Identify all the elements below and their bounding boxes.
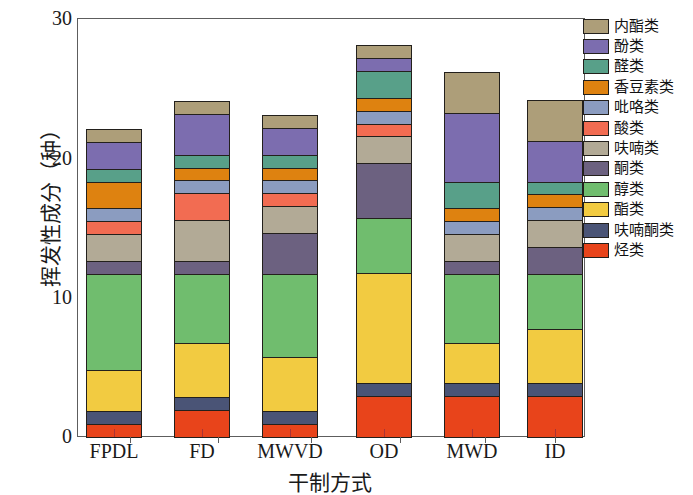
- x-tick-label: ID: [505, 440, 605, 463]
- bar-segment[interactable]: [356, 71, 412, 99]
- legend-swatch-icon: [583, 182, 609, 197]
- legend-item[interactable]: 香豆素类: [583, 77, 693, 97]
- bar-segment[interactable]: [444, 182, 500, 210]
- bar-segment[interactable]: [356, 163, 412, 219]
- bar-segment[interactable]: [356, 98, 412, 112]
- x-tick-label: FD: [152, 440, 252, 463]
- legend-item[interactable]: 酸类: [583, 118, 693, 138]
- bar-segment[interactable]: [527, 207, 583, 221]
- legend-item[interactable]: 吡咯类: [583, 98, 693, 118]
- bar-segment[interactable]: [527, 329, 583, 385]
- x-tick-label: FPDL: [64, 440, 164, 463]
- bar-segment[interactable]: [356, 45, 412, 59]
- bar-segment[interactable]: [174, 180, 230, 194]
- legend-item-label: 香豆素类: [614, 80, 674, 95]
- bar-segment[interactable]: [356, 383, 412, 397]
- bar-segment[interactable]: [527, 100, 583, 142]
- bar-segment[interactable]: [356, 111, 412, 125]
- bar-segment[interactable]: [262, 274, 318, 358]
- stacked-bar[interactable]: [527, 100, 583, 437]
- legend-item-label: 呋喃酮类: [614, 223, 674, 238]
- bar-segment[interactable]: [262, 233, 318, 275]
- legend-item[interactable]: 酮类: [583, 159, 693, 179]
- stacked-bar-chart: 挥发性成分（种） 30 20 10 0 FPDLFDMWVDODMWDID 干制…: [0, 0, 693, 495]
- bar-segment[interactable]: [174, 155, 230, 169]
- bar-segment[interactable]: [86, 274, 142, 372]
- legend-item[interactable]: 内酯类: [583, 16, 693, 36]
- legend-item[interactable]: 醛类: [583, 57, 693, 77]
- bar-segment[interactable]: [444, 72, 500, 114]
- bar-segment[interactable]: [86, 221, 142, 235]
- legend-swatch-icon: [583, 80, 609, 95]
- bar-segment[interactable]: [86, 208, 142, 222]
- bar-segment[interactable]: [262, 115, 318, 129]
- bar-segment[interactable]: [444, 261, 500, 275]
- bar-segment[interactable]: [356, 58, 412, 72]
- stacked-bar[interactable]: [86, 129, 142, 437]
- bar-segment[interactable]: [527, 220, 583, 248]
- bar-segment[interactable]: [444, 208, 500, 222]
- bar-segment[interactable]: [174, 114, 230, 156]
- bar-segment[interactable]: [86, 234, 142, 262]
- bar-segment[interactable]: [262, 128, 318, 156]
- legend-swatch-icon: [583, 59, 609, 74]
- bar-segment[interactable]: [86, 182, 142, 210]
- bar-segment[interactable]: [527, 247, 583, 275]
- bar-segment[interactable]: [527, 274, 583, 330]
- bar-segment[interactable]: [356, 273, 412, 385]
- bar-segment[interactable]: [174, 274, 230, 344]
- x-tick-mark: [555, 429, 556, 437]
- bar-segment[interactable]: [444, 343, 500, 385]
- legend-item-label: 酚类: [614, 39, 644, 54]
- bar-segment[interactable]: [86, 169, 142, 183]
- legend-item[interactable]: 醇类: [583, 179, 693, 199]
- bar-segment[interactable]: [174, 261, 230, 275]
- stacked-bar[interactable]: [444, 72, 500, 437]
- bar-segment[interactable]: [174, 343, 230, 399]
- bar-segment[interactable]: [174, 101, 230, 115]
- bar-segment[interactable]: [527, 141, 583, 183]
- bar-segment[interactable]: [356, 124, 412, 138]
- bar-segment[interactable]: [86, 129, 142, 143]
- bar-segment[interactable]: [262, 155, 318, 169]
- legend-item[interactable]: 酚类: [583, 36, 693, 56]
- bar-segment[interactable]: [444, 383, 500, 397]
- bar-segment[interactable]: [86, 370, 142, 412]
- bar-segment[interactable]: [527, 182, 583, 196]
- bar-segment[interactable]: [444, 221, 500, 235]
- legend-swatch-icon: [583, 19, 609, 34]
- legend-item[interactable]: 烃类: [583, 240, 693, 260]
- bar-segment[interactable]: [174, 220, 230, 262]
- bar-segment[interactable]: [527, 383, 583, 397]
- bar-segment[interactable]: [444, 113, 500, 183]
- legend-swatch-icon: [583, 141, 609, 156]
- bar-segment[interactable]: [444, 234, 500, 262]
- bar-segment[interactable]: [174, 397, 230, 411]
- legend-swatch-icon: [583, 161, 609, 176]
- bar-segment[interactable]: [86, 142, 142, 170]
- bar-segment[interactable]: [86, 411, 142, 425]
- bar-segment[interactable]: [527, 194, 583, 208]
- legend-swatch-icon: [583, 121, 609, 136]
- bar-segment[interactable]: [174, 168, 230, 182]
- bar-segment[interactable]: [86, 261, 142, 275]
- bar-segment[interactable]: [262, 168, 318, 182]
- bar-segment[interactable]: [356, 136, 412, 164]
- stacked-bar[interactable]: [262, 115, 318, 437]
- stacked-bar[interactable]: [174, 101, 230, 437]
- legend-item[interactable]: 呋喃类: [583, 138, 693, 158]
- bar-segment[interactable]: [174, 193, 230, 221]
- legend-item[interactable]: 酯类: [583, 200, 693, 220]
- legend-item-label: 酸类: [614, 121, 644, 136]
- bar-segment[interactable]: [262, 193, 318, 207]
- legend-item[interactable]: 呋喃酮类: [583, 220, 693, 240]
- bar-segment[interactable]: [356, 218, 412, 274]
- stacked-bar[interactable]: [356, 45, 412, 437]
- bar-segment[interactable]: [262, 206, 318, 234]
- x-tick-mark: [384, 429, 385, 437]
- bar-segment[interactable]: [262, 411, 318, 425]
- bar-segment[interactable]: [262, 357, 318, 413]
- legend-item-label: 烃类: [614, 243, 644, 258]
- bar-segment[interactable]: [262, 180, 318, 194]
- bar-segment[interactable]: [444, 274, 500, 344]
